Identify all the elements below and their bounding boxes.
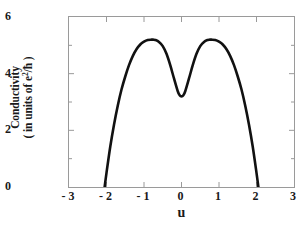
x-tick-label: 0	[161, 190, 201, 202]
x-tick-label: 1	[198, 190, 238, 202]
y-axis-title-line2-prefix: ( in units of e	[22, 76, 34, 138]
plot-svg	[69, 17, 294, 187]
x-tick-label: - 1	[123, 190, 163, 202]
y-axis-title: Conductivity ( in units of e2/ħ )	[0, 0, 44, 195]
plot-area	[68, 16, 295, 188]
y-axis-title-line2-suffix: /ħ )	[22, 57, 34, 73]
x-tick-label: 3	[273, 190, 307, 202]
x-tick-label: - 3	[48, 190, 88, 202]
y-axis-title-line2: ( in units of e2/ħ )	[22, 57, 35, 139]
axis-ticks	[69, 17, 294, 187]
x-tick-label: 2	[236, 190, 276, 202]
x-tick-label: - 2	[86, 190, 126, 202]
y-axis-title-text: Conductivity ( in units of e2/ħ )	[10, 57, 35, 139]
y-tick-label: 4	[0, 67, 11, 79]
y-tick-label: 6	[0, 10, 11, 22]
x-axis-title: u	[68, 205, 295, 221]
y-axis-title-exponent: 2	[20, 72, 29, 76]
y-tick-label: 0	[0, 180, 11, 192]
conductivity-curve	[105, 40, 259, 187]
y-tick-label: 2	[0, 123, 11, 135]
y-axis-title-line1: Conductivity	[10, 57, 23, 139]
conductivity-chart-figure: Conductivity ( in units of e2/ħ ) 0 2 4 …	[0, 0, 307, 231]
